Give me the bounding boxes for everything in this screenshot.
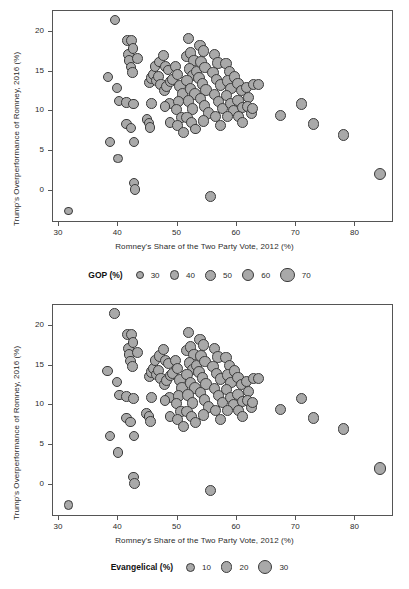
y-tick-mark bbox=[48, 404, 52, 405]
x-tick-label: 60 bbox=[224, 522, 248, 531]
x-axis-label-1: Romney's Share of the Two Party Vote, 20… bbox=[0, 242, 409, 251]
scatter-point bbox=[247, 397, 258, 408]
legend-dot-icon bbox=[258, 560, 272, 574]
scatter-point bbox=[205, 485, 216, 496]
legend-entry[interactable]: 60 bbox=[242, 269, 280, 282]
scatter-point bbox=[237, 117, 248, 128]
scatter-point bbox=[338, 129, 350, 141]
legend-title: Evangelical (%) bbox=[111, 562, 173, 572]
x-tick-label: 70 bbox=[283, 228, 307, 237]
scatter-point bbox=[237, 411, 248, 422]
legend-value-label: 60 bbox=[261, 271, 270, 280]
legend-entry[interactable]: 10 bbox=[186, 563, 221, 572]
legend-dot-icon bbox=[136, 271, 144, 279]
legend-entry[interactable]: 40 bbox=[170, 270, 205, 280]
legend-entry[interactable]: 70 bbox=[280, 268, 320, 283]
y-tick-label: 5 bbox=[22, 439, 44, 448]
legend-value-label: 70 bbox=[302, 271, 311, 280]
scatter-point bbox=[109, 308, 120, 319]
x-tick-label: 40 bbox=[105, 228, 129, 237]
scatter-point bbox=[129, 137, 139, 147]
y-tick-label: 15 bbox=[22, 360, 44, 369]
legend-entry[interactable]: 50 bbox=[205, 270, 242, 281]
scatter-point bbox=[183, 327, 194, 338]
scatter-point bbox=[247, 103, 258, 114]
x-tick-label: 30 bbox=[46, 522, 70, 531]
x-tick-mark bbox=[295, 222, 296, 226]
scatter-point bbox=[374, 462, 386, 474]
x-tick-label: 70 bbox=[283, 522, 307, 531]
scatter-point bbox=[125, 417, 135, 427]
y-tick-label: 5 bbox=[22, 145, 44, 154]
x-tick-mark bbox=[295, 516, 296, 520]
scatter-point bbox=[275, 404, 286, 415]
x-tick-mark bbox=[58, 222, 59, 226]
scatter-point bbox=[146, 392, 157, 403]
y-tick-mark bbox=[48, 71, 52, 72]
legend-value-label: 50 bbox=[223, 271, 232, 280]
scatter-point bbox=[338, 423, 350, 435]
y-tick-label: 20 bbox=[22, 26, 44, 35]
legend-entry[interactable]: 20 bbox=[221, 561, 258, 573]
scatter-point bbox=[105, 431, 115, 441]
scatter-point bbox=[215, 120, 226, 131]
scatter-point bbox=[127, 67, 137, 77]
scatter-point bbox=[129, 478, 140, 489]
scatter-point bbox=[374, 168, 386, 180]
scatter-point bbox=[178, 127, 189, 138]
scatter-point bbox=[112, 377, 122, 387]
scatter-point bbox=[128, 99, 138, 109]
scatter-point bbox=[132, 53, 143, 64]
y-axis-label-1: Trump's Overperformance of Romney, 2016 … bbox=[12, 52, 21, 226]
scatter-point bbox=[198, 45, 209, 56]
size-legend-evangelical: Evangelical (%)102030 bbox=[0, 556, 409, 578]
x-tick-label: 40 bbox=[105, 522, 129, 531]
legend-value-label: 40 bbox=[186, 271, 195, 280]
scatter-point bbox=[128, 393, 139, 404]
plot-area-gop bbox=[52, 10, 393, 222]
scatter-point bbox=[158, 344, 169, 355]
y-tick-label: 15 bbox=[22, 66, 44, 75]
y-tick-label: 0 bbox=[22, 479, 44, 488]
legend-dot-icon bbox=[186, 563, 195, 572]
y-tick-mark bbox=[48, 190, 52, 191]
legend-dot-icon bbox=[242, 269, 255, 282]
scatter-point bbox=[64, 500, 74, 510]
scatter-point bbox=[198, 409, 209, 420]
scatter-point bbox=[102, 366, 112, 376]
x-tick-mark bbox=[177, 222, 178, 226]
y-tick-label: 10 bbox=[22, 399, 44, 408]
y-tick-label: 10 bbox=[22, 105, 44, 114]
x-tick-label: 80 bbox=[342, 522, 366, 531]
legend-dot-icon bbox=[280, 268, 295, 283]
scatter-point bbox=[105, 137, 115, 147]
legend-dot-icon bbox=[205, 270, 216, 281]
legend-entry[interactable]: 30 bbox=[136, 271, 170, 280]
legend-entry[interactable]: 30 bbox=[258, 560, 298, 574]
y-tick-label: 0 bbox=[22, 185, 44, 194]
y-axis-label-2: Trump's Overperformance of Romney, 2016 … bbox=[12, 346, 21, 520]
legend-value-label: 30 bbox=[279, 563, 288, 572]
scatter-point bbox=[103, 72, 113, 82]
scatter-point bbox=[128, 337, 139, 348]
plot-area-evangelical bbox=[52, 304, 393, 516]
scatter-point bbox=[129, 431, 139, 441]
scatter-point bbox=[160, 101, 171, 112]
x-tick-mark bbox=[236, 222, 237, 226]
scatter-point bbox=[126, 123, 136, 133]
legend-dot-icon bbox=[221, 561, 233, 573]
legend-title: GOP (%) bbox=[88, 270, 122, 280]
y-tick-mark bbox=[48, 325, 52, 326]
x-tick-label: 30 bbox=[46, 228, 70, 237]
scatter-point bbox=[127, 361, 138, 372]
x-tick-mark bbox=[117, 516, 118, 520]
x-tick-label: 50 bbox=[165, 522, 189, 531]
scatter-point bbox=[145, 122, 155, 132]
scatter-point bbox=[222, 111, 233, 122]
scatter-point bbox=[275, 110, 286, 121]
scatter-point bbox=[198, 115, 209, 126]
scatter-point bbox=[215, 414, 226, 425]
scatter-point bbox=[253, 373, 264, 384]
scatter-point bbox=[308, 118, 320, 130]
legend-value-label: 30 bbox=[151, 271, 160, 280]
